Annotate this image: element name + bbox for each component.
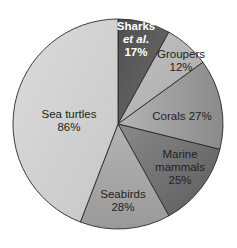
label-turtles-name: Sea turtles: [42, 108, 97, 121]
label-seabirds: Seabirds 28%: [100, 188, 145, 214]
label-sharks-pct: 17%: [117, 46, 155, 59]
label-marine-name1: Marine: [155, 148, 205, 161]
label-sharks-etal: et al.: [117, 33, 155, 46]
label-groupers: Groupers 12%: [157, 48, 205, 74]
label-sharks-name: Sharks: [117, 20, 155, 33]
label-sharks: Sharks et al. 17%: [117, 20, 155, 59]
label-groupers-name: Groupers: [157, 48, 205, 61]
label-marine-name2: mammals: [155, 161, 205, 174]
label-corals-text: Corals 27%: [152, 110, 211, 123]
label-marine: Marine mammals 25%: [155, 148, 205, 187]
label-turtles-pct: 86%: [42, 121, 97, 134]
label-corals: Corals 27%: [152, 110, 211, 123]
label-marine-pct: 25%: [155, 174, 205, 187]
label-seabirds-name: Seabirds: [100, 188, 145, 201]
label-groupers-pct: 12%: [157, 61, 205, 74]
label-sea-turtles: Sea turtles 86%: [42, 108, 97, 134]
label-seabirds-pct: 28%: [100, 201, 145, 214]
